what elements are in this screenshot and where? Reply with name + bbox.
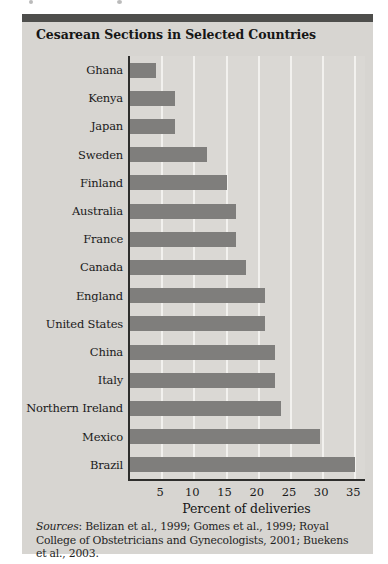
category-label-australia: Australia (22, 197, 123, 225)
scan-artifact (29, 0, 33, 4)
bar-canada (130, 260, 246, 275)
category-label-mexico: Mexico (22, 423, 123, 451)
figure-top-strip (22, 14, 373, 22)
bar-france (130, 232, 236, 247)
category-label-kenya: Kenya (22, 84, 123, 112)
page: { "figure": { "source_prefix": "Sources"… (0, 0, 388, 564)
category-label-northern-ireland: Northern Ireland (22, 394, 123, 422)
chart-title: Cesarean Sections in Selected Countries (36, 27, 316, 42)
bar-kenya (130, 91, 175, 106)
source-note-text: : Belizan et al., 1999; Gomes et al., 19… (36, 520, 348, 560)
gridline-35 (354, 56, 356, 479)
gridline-30 (322, 56, 324, 479)
category-label-united-states: United States (22, 310, 123, 338)
x-tick-label-35: 35 (346, 485, 361, 499)
category-label-italy: Italy (22, 366, 123, 394)
category-label-china: China (22, 338, 123, 366)
x-tick-label-5: 5 (157, 485, 164, 499)
bar-mexico (130, 429, 320, 444)
scan-artifact (117, 0, 122, 4)
category-axis-labels: GhanaKenyaJapanSwedenFinlandAustraliaFra… (22, 56, 123, 479)
bar-sweden (130, 147, 207, 162)
bar-italy (130, 373, 275, 388)
category-label-france: France (22, 225, 123, 253)
bar-england (130, 288, 265, 303)
bar-australia (130, 204, 236, 219)
category-label-ghana: Ghana (22, 56, 123, 84)
x-tick-label-15: 15 (217, 485, 232, 499)
category-label-england: England (22, 282, 123, 310)
x-tick-label-30: 30 (314, 485, 329, 499)
x-axis-tick-labels: 5101520253035 (128, 485, 365, 499)
x-tick-label-25: 25 (282, 485, 297, 499)
bar-finland (130, 175, 227, 190)
bar-japan (130, 119, 175, 134)
bar-ghana (130, 63, 156, 78)
x-tick-label-20: 20 (249, 485, 264, 499)
bar-northern-ireland (130, 401, 281, 416)
category-label-japan: Japan (22, 112, 123, 140)
category-label-finland: Finland (22, 169, 123, 197)
category-label-sweden: Sweden (22, 141, 123, 169)
bar-china (130, 345, 275, 360)
x-tick-label-10: 10 (185, 485, 200, 499)
plot-area (128, 56, 365, 481)
x-axis-title: Percent of deliveries (128, 501, 365, 516)
bar-brazil (130, 457, 355, 472)
source-note-prefix: Sources (36, 520, 79, 533)
gridline-25 (290, 56, 292, 479)
figure-panel: Cesarean Sections in Selected Countries … (22, 14, 373, 554)
bar-united-states (130, 316, 265, 331)
source-note: Sources: Belizan et al., 1999; Gomes et … (36, 520, 361, 561)
category-label-brazil: Brazil (22, 451, 123, 479)
category-label-canada: Canada (22, 253, 123, 281)
